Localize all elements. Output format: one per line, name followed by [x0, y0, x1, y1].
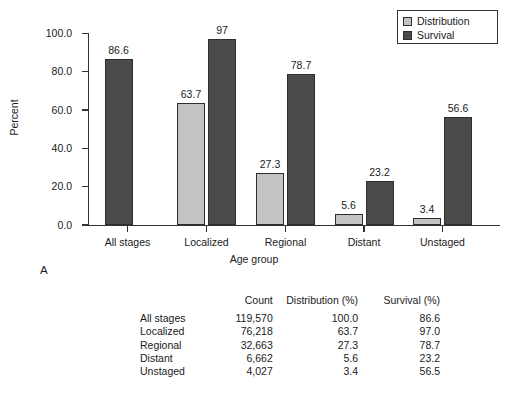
table-header-distribution: Distribution (%) — [273, 294, 374, 312]
data-table: Count Distribution (%) Survival (%) All … — [140, 294, 440, 378]
table-cell-distribution: 100.0 — [273, 312, 374, 325]
table-row: Distant6,6625.623.2 — [140, 352, 440, 365]
x-axis-tick — [363, 226, 364, 232]
table-cell-survival: 86.6 — [374, 312, 440, 325]
bar-value-label: 86.6 — [94, 45, 144, 56]
bar-distribution-localized — [177, 103, 205, 225]
table-cell-survival: 97.0 — [374, 325, 440, 338]
legend-label-survival: Survival — [417, 30, 454, 41]
table-row: All stages119,570100.086.6 — [140, 312, 440, 325]
bar-distribution-regional — [256, 173, 284, 225]
table-cell-count: 76,218 — [212, 325, 273, 338]
y-axis-tick — [82, 224, 88, 225]
bar-survival-unstaged — [444, 117, 472, 225]
y-axis-tick — [82, 186, 88, 187]
legend-swatch-survival-icon — [403, 31, 412, 40]
y-axis-tick-label: 100.0 — [28, 28, 72, 39]
y-axis-tick-label: 20.0 — [28, 181, 72, 192]
panel-label: A — [40, 264, 48, 276]
bar-survival-localized — [208, 39, 236, 225]
bar-survival-distant — [366, 181, 394, 225]
table-cell-survival: 23.2 — [374, 352, 440, 365]
y-axis-tick-label: 80.0 — [28, 66, 72, 77]
bar-distribution-distant — [335, 214, 363, 225]
y-axis-tick-label: 40.0 — [28, 143, 72, 154]
bar-survival-all-stages — [105, 59, 133, 225]
table-header-stage — [140, 294, 212, 312]
y-axis-line — [88, 33, 89, 226]
table-cell-stage: Localized — [140, 325, 212, 338]
x-axis-line — [88, 225, 500, 226]
y-axis-tick — [82, 109, 88, 110]
bar-value-label: 78.7 — [276, 60, 326, 71]
table-cell-stage: Regional — [140, 339, 212, 352]
bar-value-label: 56.6 — [433, 103, 483, 114]
table-cell-count: 4,027 — [212, 365, 273, 378]
table-row: Regional32,66327.378.7 — [140, 339, 440, 352]
y-axis-tick — [82, 148, 88, 149]
table-cell-survival: 56.5 — [374, 365, 440, 378]
bar-distribution-unstaged — [413, 218, 441, 225]
table-row: Unstaged4,0273.456.5 — [140, 365, 440, 378]
table-header-count: Count — [212, 294, 273, 312]
chart-legend: Distribution Survival — [397, 10, 498, 44]
legend-swatch-distribution-icon — [403, 17, 412, 26]
figure-panel-a: 0.020.040.060.080.0100.0 All stagesLocal… — [0, 0, 508, 397]
bar-survival-regional — [287, 74, 315, 225]
table-cell-survival: 78.7 — [374, 339, 440, 352]
y-axis-title: Percent — [9, 83, 20, 153]
bar-value-label: 97 — [197, 25, 247, 36]
y-axis-tick-label: 0.0 — [28, 220, 72, 231]
table-cell-distribution: 63.7 — [273, 325, 374, 338]
table-cell-distribution: 3.4 — [273, 365, 374, 378]
table-row: Localized76,21863.797.0 — [140, 325, 440, 338]
bar-chart: 0.020.040.060.080.0100.0 All stagesLocal… — [0, 0, 508, 290]
table-cell-count: 32,663 — [212, 339, 273, 352]
x-axis-tick — [442, 226, 443, 232]
table-cell-distribution: 27.3 — [273, 339, 374, 352]
bar-value-label: 23.2 — [355, 167, 405, 178]
y-axis-tick-label: 60.0 — [28, 105, 72, 116]
y-axis-tick — [82, 71, 88, 72]
table-cell-stage: All stages — [140, 312, 212, 325]
legend-item-survival: Survival — [403, 28, 497, 42]
legend-item-distribution: Distribution — [403, 14, 497, 28]
legend-label-distribution: Distribution — [417, 16, 470, 27]
table-cell-distribution: 5.6 — [273, 352, 374, 365]
x-axis-tick — [206, 226, 207, 232]
x-axis-tick — [127, 226, 128, 232]
y-axis-tick — [82, 33, 88, 34]
table-header-survival: Survival (%) — [374, 294, 440, 312]
table-cell-count: 119,570 — [212, 312, 273, 325]
x-axis-title: Age group — [0, 253, 508, 265]
x-axis-tick — [285, 226, 286, 232]
table-cell-count: 6,662 — [212, 352, 273, 365]
table-cell-stage: Distant — [140, 352, 212, 365]
table-header-row: Count Distribution (%) Survival (%) — [140, 294, 440, 312]
x-axis-category-label-unstaged: Unstaged — [393, 236, 493, 248]
table-cell-stage: Unstaged — [140, 365, 212, 378]
